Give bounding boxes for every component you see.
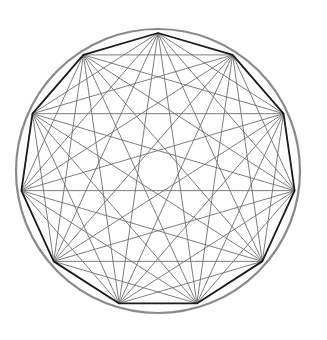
background bbox=[0, 0, 327, 340]
hendecagon-diagram bbox=[0, 0, 327, 340]
